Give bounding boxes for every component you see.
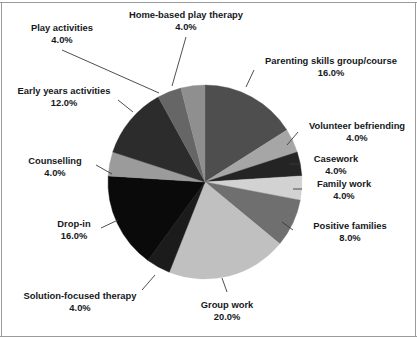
slice-label-solution-focused-therapy: Solution-focused therapy 4.0% [18, 290, 142, 313]
slice-label-volunteer-befriending-name: Volunteer befriending [300, 120, 414, 132]
slice-label-volunteer-befriending-value: 4.0% [300, 132, 414, 144]
slice-label-casework: Casework 4.0% [305, 153, 367, 176]
slice-label-parenting-skills-value: 16.0% [248, 67, 414, 79]
slice-label-positive-families: Positive families 8.0% [300, 220, 400, 243]
slice-label-drop-in-name: Drop-in [48, 218, 100, 230]
slice-label-family-work: Family work 4.0% [306, 178, 382, 201]
slice-label-parenting-skills-name: Parenting skills group/course [248, 55, 414, 67]
slice-label-parenting-skills: Parenting skills group/course 16.0% [248, 55, 414, 78]
slice-label-home-based-play-therapy: Home-based play therapy 4.0% [112, 9, 260, 32]
slice-label-counselling-name: Counselling [18, 155, 92, 167]
slice-label-solution-focused-therapy-name: Solution-focused therapy [18, 290, 142, 302]
leader-line-drop-in [101, 220, 118, 228]
slice-label-play-activities-value: 4.0% [8, 34, 116, 46]
slice-label-early-years-activities-name: Early years activities [3, 85, 125, 97]
slice-label-counselling: Counselling 4.0% [18, 155, 92, 178]
slice-label-casework-value: 4.0% [305, 165, 367, 177]
slice-label-casework-name: Casework [305, 153, 367, 165]
slice-label-play-activities: Play activities 4.0% [8, 22, 116, 45]
leader-line-home-based-play-therapy [172, 37, 186, 86]
pie-chart-screenshot: Play activities 4.0% Home-based play the… [0, 0, 417, 339]
slice-label-early-years-activities: Early years activities 12.0% [3, 85, 125, 108]
slice-label-drop-in-value: 16.0% [48, 230, 100, 242]
slice-label-home-based-play-therapy-value: 4.0% [112, 21, 260, 33]
slice-label-home-based-play-therapy-name: Home-based play therapy [112, 9, 260, 21]
slice-label-solution-focused-therapy-value: 4.0% [18, 302, 142, 314]
slice-label-drop-in: Drop-in 16.0% [48, 218, 100, 241]
slice-label-group-work-value: 20.0% [182, 311, 272, 323]
slice-label-volunteer-befriending: Volunteer befriending 4.0% [300, 120, 414, 143]
slice-label-group-work-name: Group work [182, 299, 272, 311]
slice-label-positive-families-name: Positive families [300, 220, 400, 232]
leader-line-solution-focused-therapy [142, 275, 155, 290]
slice-label-play-activities-name: Play activities [8, 22, 116, 34]
pie-slice-group [108, 85, 302, 279]
slice-label-early-years-activities-value: 12.0% [3, 97, 125, 109]
slice-label-family-work-value: 4.0% [306, 190, 382, 202]
slice-label-group-work: Group work 20.0% [182, 299, 272, 322]
slice-label-family-work-name: Family work [306, 178, 382, 190]
slice-label-counselling-value: 4.0% [18, 167, 92, 179]
leader-line-group-work [222, 278, 227, 292]
slice-label-positive-families-value: 8.0% [300, 232, 400, 244]
